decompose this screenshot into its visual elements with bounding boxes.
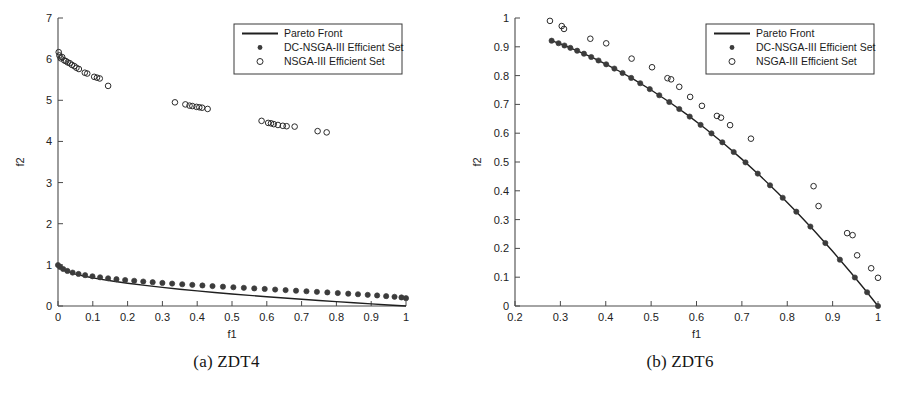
x-axis-label: f1: [692, 328, 701, 340]
x-tick-label: 0.7: [294, 311, 309, 323]
y-tick-label: 5: [46, 94, 52, 106]
data-point-open: [844, 230, 850, 236]
x-tick-label: 0.9: [825, 311, 840, 323]
data-point-filled: [384, 294, 389, 299]
x-tick-label: 0: [55, 311, 61, 323]
data-point-open: [816, 203, 822, 209]
y-tick-label: 0.9: [494, 41, 509, 53]
y-tick-label: 0.2: [494, 242, 509, 254]
y-tick-label: 4: [46, 135, 52, 147]
data-point-filled: [596, 58, 601, 63]
data-point-filled: [720, 140, 725, 145]
data-point-filled: [293, 288, 298, 293]
y-tick-label: 0.6: [494, 127, 509, 139]
x-tick-label: 0.8: [329, 311, 344, 323]
figure-container: 00.10.20.30.40.50.60.70.80.9101234567f1f…: [0, 0, 907, 405]
data-point-filled: [562, 43, 567, 48]
x-axis-label: f1: [227, 328, 236, 340]
legend-label-2: DC-NSGA-III Efficient Set: [756, 41, 876, 53]
scatter-plot-zdt4: 00.10.20.30.40.50.60.70.80.9101234567f1f…: [0, 0, 453, 350]
x-tick-label: 0.5: [643, 311, 658, 323]
chart-legend: Pareto FrontDC-NSGA-III Efficient SetNSG…: [234, 24, 404, 74]
data-point-filled: [314, 289, 319, 294]
data-point-open: [811, 183, 817, 189]
data-point-open: [315, 128, 321, 134]
data-point-filled: [687, 114, 692, 119]
x-tick-label: 0.8: [780, 311, 795, 323]
data-point-filled: [200, 283, 205, 288]
legend-label-3: NSGA-III Efficient Set: [284, 55, 385, 67]
data-point-filled: [210, 283, 215, 288]
scatter-plot-zdt6: 0.20.30.40.50.60.70.80.9100.10.20.30.40.…: [453, 0, 907, 350]
data-point-open: [284, 123, 290, 129]
data-point-open: [875, 275, 881, 281]
data-point-filled: [180, 282, 185, 287]
data-point-filled: [549, 38, 554, 43]
data-point-filled: [273, 287, 278, 292]
data-point-filled: [283, 288, 288, 293]
x-tick-label: 0.9: [364, 311, 379, 323]
x-tick-label: 0.2: [507, 311, 522, 323]
data-point-filled: [780, 195, 785, 200]
chart-panel-zdt4: 00.10.20.30.40.50.60.70.80.9101234567f1f…: [0, 0, 453, 405]
data-point-open: [868, 265, 874, 271]
x-tick-label: 0.6: [259, 311, 274, 323]
x-tick-label: 1: [403, 311, 409, 323]
data-point-open: [547, 18, 553, 24]
data-point-filled: [304, 289, 309, 294]
data-point-filled: [90, 274, 95, 279]
data-point-filled: [123, 277, 128, 282]
x-tick-label: 0.2: [120, 311, 135, 323]
data-point-open: [748, 136, 754, 142]
data-point-filled: [241, 285, 246, 290]
data-point-filled: [647, 87, 652, 92]
series-1: [552, 41, 878, 306]
legend-label-2: DC-NSGA-III Efficient Set: [284, 41, 404, 53]
y-axis-label: f2: [14, 157, 26, 166]
chart-panel-zdt6: 0.20.30.40.50.60.70.80.9100.10.20.30.40.…: [453, 0, 907, 405]
data-point-filled: [262, 286, 267, 291]
x-tick-label: 1: [875, 311, 881, 323]
data-point-open: [172, 100, 178, 106]
y-tick-label: 1: [503, 12, 509, 24]
data-point-filled: [160, 280, 165, 285]
data-point-filled: [875, 303, 880, 308]
x-tick-label: 0.1: [85, 311, 100, 323]
data-point-filled: [667, 99, 672, 104]
data-point-open: [854, 253, 860, 259]
legend-marker-filled-circle: [258, 45, 263, 50]
data-point-filled: [106, 276, 111, 281]
data-point-filled: [132, 278, 137, 283]
data-point-filled: [657, 93, 662, 98]
data-point-filled: [325, 290, 330, 295]
legend-marker-filled-circle: [730, 45, 735, 50]
data-point-open: [205, 106, 211, 112]
data-point-filled: [170, 281, 175, 286]
y-tick-label: 0.7: [494, 98, 509, 110]
y-tick-label: 2: [46, 218, 52, 230]
data-point-open: [588, 36, 594, 42]
data-point-filled: [677, 106, 682, 111]
data-point-open: [649, 64, 655, 70]
data-point-filled: [865, 290, 870, 295]
data-point-open: [850, 232, 856, 238]
data-point-filled: [141, 279, 146, 284]
data-point-filled: [698, 122, 703, 127]
data-point-filled: [335, 290, 340, 295]
data-point-open: [668, 77, 674, 83]
data-point-open: [629, 56, 635, 62]
data-point-open: [676, 84, 682, 90]
data-point-open: [687, 94, 693, 100]
legend-label-3: NSGA-III Efficient Set: [756, 55, 857, 67]
data-point-filled: [190, 282, 195, 287]
data-point-filled: [98, 275, 103, 280]
data-point-filled: [70, 270, 75, 275]
data-point-filled: [375, 293, 380, 298]
data-point-open: [603, 41, 609, 47]
x-tick-label: 0.3: [553, 311, 568, 323]
x-tick-label: 0.5: [224, 311, 239, 323]
pareto-front-line: [552, 41, 878, 306]
x-tick-label: 0.7: [734, 311, 749, 323]
series-2: [55, 262, 408, 300]
y-tick-label: 3: [46, 177, 52, 189]
